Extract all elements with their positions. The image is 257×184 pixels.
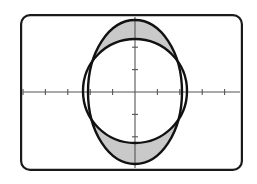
figure-container xyxy=(0,0,257,184)
calculator-screen-svg xyxy=(0,0,257,184)
